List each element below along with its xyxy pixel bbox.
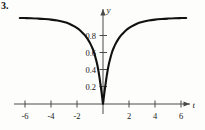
x-tick-label: -4 (47, 111, 55, 121)
figure-container: 3. t y -6 -4 -2 2 4 6 (0, 0, 205, 130)
y-axis-label: y (106, 5, 111, 15)
x-axis-label: t (193, 100, 196, 110)
graph-plot: t y -6 -4 -2 2 4 6 0.2 (0, 0, 205, 130)
x-tick-label: 6 (179, 111, 183, 121)
y-tick-label: 0.4 (85, 65, 96, 75)
y-tick-label: 0.2 (85, 82, 96, 92)
x-axis-tick-labels: -6 -4 -2 2 4 6 (21, 111, 183, 121)
x-tick-label: 2 (127, 111, 131, 121)
x-tick-label: -2 (73, 111, 80, 121)
x-axis-arrow-icon (184, 101, 191, 106)
x-tick-label: -6 (21, 111, 28, 121)
y-axis-arrow-icon (100, 9, 105, 16)
x-tick-label: 4 (153, 111, 158, 121)
